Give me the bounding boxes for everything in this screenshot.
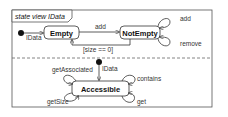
state-accessible-label: Accessible — [81, 85, 120, 94]
self-transition-getassociated-label: getAssociated — [52, 66, 93, 74]
self-transition-remove-label: remove — [180, 40, 202, 47]
diagram-title: state view IData — [15, 13, 65, 20]
transition-add-label: add — [95, 23, 106, 30]
self-transition-getsize-label: getSize — [47, 98, 69, 106]
state-notempty-label: NotEmpty — [122, 29, 158, 38]
self-transition-contains-label: contains — [137, 75, 162, 82]
initial-pseudostate — [18, 30, 24, 36]
initial-label-2: IData — [102, 65, 118, 72]
state-diagram: state view IData IData Empty NotEmpty ad… — [0, 0, 228, 117]
initial-label: IData — [26, 34, 42, 41]
self-transition-get-label: get — [137, 98, 146, 106]
transition-size-zero-label: [size == 0] — [83, 46, 113, 54]
self-transition-add-label: add — [180, 15, 191, 22]
state-empty-label: Empty — [50, 29, 74, 38]
